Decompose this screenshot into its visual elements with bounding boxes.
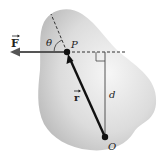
label-d: d [109, 89, 115, 100]
point-p [64, 49, 70, 55]
point-o [102, 134, 108, 140]
label-p: P [70, 39, 78, 50]
rigid-body [38, 9, 156, 150]
label-o: O [108, 141, 116, 152]
label-force: F [11, 37, 19, 50]
label-theta: θ [46, 37, 52, 48]
label-r: r [74, 92, 80, 103]
torque-diagram: F θ P r d O [0, 0, 168, 162]
